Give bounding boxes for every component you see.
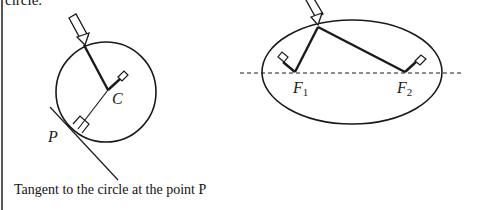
radius-to-p bbox=[78, 90, 108, 129]
figure-caption: Tangent to the circle at the point P bbox=[14, 182, 206, 198]
diagram-canvas: C P F1 F2 bbox=[0, 0, 482, 210]
string-to-center bbox=[84, 45, 108, 90]
pin-f1-stem bbox=[283, 62, 295, 72]
pin-stem bbox=[108, 79, 120, 90]
figure-frame: circle. C P bbox=[0, 0, 482, 210]
pin-f2-head-icon bbox=[415, 55, 426, 65]
label-c: C bbox=[112, 90, 123, 107]
circle-figure: C P bbox=[47, 14, 156, 180]
tangent-line bbox=[50, 107, 118, 180]
ellipse-figure: F1 F2 bbox=[240, 0, 464, 124]
pencil-icon bbox=[69, 14, 89, 45]
string-to-f1 bbox=[295, 27, 318, 72]
ellipse-outline bbox=[262, 20, 442, 124]
pencil-icon bbox=[306, 0, 323, 25]
label-p: P bbox=[47, 128, 58, 145]
label-f1: F1 bbox=[292, 79, 308, 98]
label-f2: F2 bbox=[396, 79, 412, 98]
string-to-f2 bbox=[318, 27, 405, 72]
pin-f1-head-icon bbox=[278, 52, 288, 62]
pin-f2-stem bbox=[405, 61, 417, 72]
